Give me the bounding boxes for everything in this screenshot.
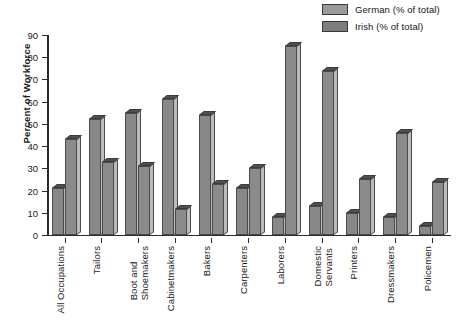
bar-group [379, 35, 416, 235]
legend-swatch-irish [322, 21, 348, 32]
y-tick-label: 0 [14, 231, 38, 241]
bar-front-face [285, 46, 297, 235]
chart-figure: German (% of total) Irish (% of total) P… [0, 0, 463, 324]
bar-front-face [419, 226, 431, 235]
x-tick-label: Cabinetmakers [165, 246, 176, 311]
bar-front-face [322, 71, 334, 235]
x-tick-label: Policemen [422, 246, 433, 291]
bar-front-face [138, 166, 150, 235]
bar-german [162, 95, 174, 235]
bar-front-face [52, 188, 64, 235]
bar-front-face [125, 113, 137, 235]
x-axis-labels: All OccupationsTailorsBoot and Shoemaker… [48, 238, 452, 324]
x-tick-mark [285, 238, 286, 243]
x-tick-mark [138, 238, 139, 243]
bar-front-face [383, 217, 395, 235]
bar-front-face [199, 115, 211, 235]
bar-side-face [334, 67, 338, 235]
x-tick-mark [432, 238, 433, 243]
bar-side-face [114, 159, 118, 235]
bar-group [305, 35, 342, 235]
x-tick-label: Bakers [201, 246, 212, 276]
bar-german [236, 184, 248, 235]
bar-front-face [89, 119, 101, 235]
bar-irish [359, 175, 371, 235]
bar-group [342, 35, 379, 235]
bar-german [272, 213, 284, 235]
bar-front-face [249, 168, 261, 235]
bar-group [85, 35, 122, 235]
bar-front-face [175, 209, 187, 235]
x-tick-label: Laborers [275, 246, 286, 284]
bar-side-face [408, 130, 412, 235]
bar-group [158, 35, 195, 235]
bar-german [419, 222, 431, 235]
bar-irish [432, 178, 444, 235]
bar-group [232, 35, 269, 235]
x-tick-mark [175, 238, 176, 243]
bar-front-face [162, 99, 174, 235]
bar-irish [396, 129, 408, 235]
bar-irish [249, 164, 261, 235]
y-tick-label: 60 [14, 98, 38, 108]
bar-irish [65, 135, 77, 235]
bar-german [199, 111, 211, 235]
bar-group [121, 35, 158, 235]
bar-front-face [432, 182, 444, 235]
bar-front-face [396, 133, 408, 235]
bar-front-face [346, 213, 358, 235]
y-tick-label: 30 [14, 164, 38, 174]
bar-irish [285, 42, 297, 235]
y-axis-tick-labels: 9080706050403020100 [14, 0, 38, 324]
bar-side-face [371, 176, 375, 235]
bar-front-face [236, 188, 248, 235]
bar-front-face [102, 162, 114, 235]
x-tick-label: Boot and Shoemakers [128, 246, 150, 300]
y-tick-label: 80 [14, 53, 38, 63]
bar-side-face [224, 181, 228, 235]
bar-group [415, 35, 452, 235]
bar-irish [212, 180, 224, 235]
x-tick-label: Printers [348, 246, 359, 280]
bar-side-face [261, 165, 265, 235]
bar-side-face [297, 43, 301, 235]
x-tick-label: Tailors [91, 246, 102, 274]
legend-label-irish: Irish (% of total) [355, 21, 423, 32]
x-tick-mark [101, 238, 102, 243]
y-tick-label: 40 [14, 142, 38, 152]
x-tick-mark [358, 238, 359, 243]
bar-german [383, 213, 395, 235]
bar-german [346, 209, 358, 235]
bar-group [268, 35, 305, 235]
x-tick-mark [65, 238, 66, 243]
bar-front-face [65, 139, 77, 235]
legend-item-german: German (% of total) [322, 2, 440, 16]
y-tick-label: 50 [14, 120, 38, 130]
x-tick-mark [395, 238, 396, 243]
plot-area [48, 35, 452, 235]
bar-irish [175, 205, 187, 235]
x-tick-mark [322, 238, 323, 243]
bar-german [309, 202, 321, 235]
chart-legend: German (% of total) Irish (% of total) [322, 2, 440, 36]
y-tick-label: 10 [14, 209, 38, 219]
bar-german [89, 115, 101, 235]
bar-front-face [359, 179, 371, 235]
bar-irish [138, 162, 150, 235]
legend-label-german: German (% of total) [355, 4, 440, 15]
bar-front-face [309, 206, 321, 235]
x-tick-label: Domestic Servants [312, 246, 334, 286]
x-tick-mark [211, 238, 212, 243]
bar-side-face [187, 206, 191, 235]
legend-item-irish: Irish (% of total) [322, 19, 440, 33]
bar-german [52, 184, 64, 235]
bar-front-face [212, 184, 224, 235]
bar-side-face [444, 179, 448, 235]
y-tick-label: 90 [14, 31, 38, 41]
bar-side-face [77, 136, 81, 235]
bar-front-face [272, 217, 284, 235]
bar-irish [322, 67, 334, 235]
y-tick-label: 70 [14, 75, 38, 85]
x-tick-mark [248, 238, 249, 243]
y-tick-label: 20 [14, 187, 38, 197]
